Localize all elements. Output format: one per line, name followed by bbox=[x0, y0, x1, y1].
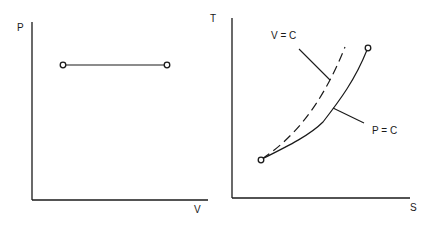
v-axis-label: V bbox=[194, 204, 201, 215]
ts-panel: T S V = C P = C bbox=[210, 13, 417, 213]
state-point-2 bbox=[164, 62, 170, 68]
p-c-label: P = C bbox=[372, 125, 397, 136]
constant-volume-curve bbox=[262, 47, 345, 159]
t-axis-label: T bbox=[210, 13, 216, 24]
p-c-leader bbox=[333, 108, 364, 123]
ts-end-point bbox=[365, 45, 371, 51]
p-axis-label: P bbox=[17, 22, 24, 33]
s-axis-label: S bbox=[410, 202, 417, 213]
constant-pressure-curve bbox=[262, 50, 367, 159]
ts-start-point bbox=[258, 157, 264, 163]
v-c-label: V = C bbox=[271, 30, 296, 41]
pv-ts-diagram: P V T S V = C P = C bbox=[0, 0, 432, 225]
v-c-leader bbox=[299, 49, 330, 80]
state-point-1 bbox=[60, 62, 66, 68]
pv-panel: P V bbox=[17, 22, 208, 215]
